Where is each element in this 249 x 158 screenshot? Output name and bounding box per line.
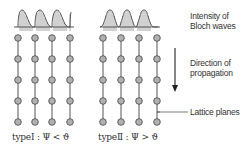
type1-lattice-atoms [15, 35, 74, 126]
intensity-label-line1: Intensity of [190, 11, 236, 21]
type1-bloch-wave-intensity [14, 10, 74, 31]
direction-label-line2: propagation [190, 68, 233, 78]
type2-lattice [103, 38, 157, 122]
lattice-planes-label: Lattice planes [190, 107, 240, 117]
type2-lattice-atoms [100, 35, 161, 126]
propagation-direction-arrow [172, 48, 178, 92]
direction-label: Direction of propagation [190, 58, 233, 78]
intensity-label-line2: Bloch waves [190, 21, 236, 31]
type1-label: typeⅠ : Ψ < ϑ [12, 132, 69, 142]
type1-lattice [18, 38, 70, 122]
type2-bloch-wave-intensity [100, 10, 160, 31]
type2-label: typeⅡ : Ψ > ϑ [98, 132, 158, 142]
direction-label-line1: Direction of [190, 58, 233, 68]
intensity-label: Intensity of Bloch waves [190, 11, 236, 31]
